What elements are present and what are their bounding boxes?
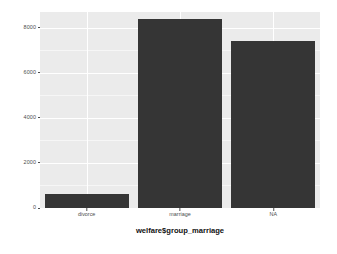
x-axis-title: welfare$group_marriage (40, 227, 320, 235)
y-tick-label: 6000 (24, 70, 38, 75)
y-tick-label: 4000 (24, 115, 38, 120)
bar-na (231, 41, 315, 208)
plot-panel (40, 12, 320, 208)
x-tick-label: divorce (78, 212, 95, 217)
y-tick-mark (38, 117, 41, 118)
x-tick: NA (270, 208, 278, 217)
x-tick: marriage (169, 208, 190, 217)
gridline-major-x (87, 12, 88, 208)
y-tick-mark (38, 72, 41, 73)
bar-marriage (138, 19, 222, 208)
x-tick: divorce (78, 208, 95, 217)
y-tick-mark (38, 27, 41, 28)
y-tick-label: 2000 (24, 160, 38, 165)
bar-divorce (45, 194, 129, 208)
y-tick-mark (38, 162, 41, 163)
y-axis: 80006000400020000 (0, 12, 40, 208)
x-tick-label: NA (270, 212, 278, 217)
y-tick-label: 8000 (24, 25, 38, 30)
x-axis: divorcemarriageNA (40, 208, 320, 224)
bar-chart: 80006000400020000 divorcemarriageNA welf… (0, 0, 337, 254)
x-tick-label: marriage (169, 212, 190, 217)
